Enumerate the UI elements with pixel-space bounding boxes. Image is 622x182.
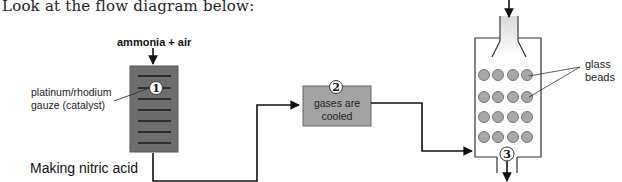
glass-beads-pointers (529, 67, 580, 97)
cooler-label: gases are cooled (303, 97, 371, 122)
catalyst-vessel: 1 (130, 66, 178, 152)
glass-beads (479, 70, 533, 143)
absorber-vessel: 3 (475, 0, 541, 181)
flow-diagram: 1 2 3 (0, 0, 622, 182)
svg-text:3: 3 (503, 148, 511, 161)
svg-text:1: 1 (152, 82, 160, 95)
pipe-cooler-to-absorber (371, 103, 472, 151)
svg-text:2: 2 (332, 81, 340, 94)
